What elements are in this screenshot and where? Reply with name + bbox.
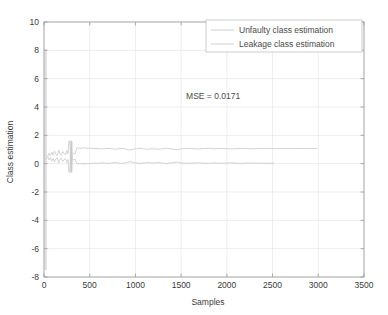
x-tick-label: 500 bbox=[83, 280, 97, 290]
y-tick-label: 6 bbox=[34, 74, 39, 84]
chart-figure: 0500100015002000250030003500 1086420-2-4… bbox=[0, 0, 388, 315]
x-tick-label: 1500 bbox=[172, 280, 191, 290]
x-tick-label: 3000 bbox=[309, 280, 328, 290]
y-tick-label: 10 bbox=[30, 17, 40, 27]
y-tick-label: 2 bbox=[34, 130, 39, 140]
y-tick-label: -6 bbox=[31, 244, 39, 254]
y-tick-label: 8 bbox=[34, 45, 39, 55]
y-tick-label: -4 bbox=[31, 215, 39, 225]
x-tick-label: 2500 bbox=[263, 280, 282, 290]
chart-annotations: MSE = 0.0171 bbox=[186, 91, 240, 101]
x-axis-title: Samples bbox=[191, 297, 224, 307]
mse-annotation: MSE = 0.0171 bbox=[186, 91, 240, 101]
y-tick-label: -8 bbox=[31, 272, 39, 282]
x-tick-label: 2000 bbox=[217, 280, 236, 290]
y-tick-label: -2 bbox=[31, 187, 39, 197]
y-axis-title: Class estimation bbox=[5, 121, 15, 184]
x-tick-label: 0 bbox=[42, 280, 47, 290]
line-chart: 0500100015002000250030003500 1086420-2-4… bbox=[0, 0, 388, 315]
legend-label-2: Leakage class estimation bbox=[239, 39, 335, 49]
legend-label-1: Unfaulty class estimation bbox=[239, 25, 333, 35]
chart-legend[interactable]: Unfaulty class estimationLeakage class e… bbox=[206, 20, 362, 52]
y-tick-label: 0 bbox=[34, 159, 39, 169]
x-tick-label: 1000 bbox=[126, 280, 145, 290]
y-tick-label: 4 bbox=[34, 102, 39, 112]
x-tick-label: 3500 bbox=[355, 280, 374, 290]
